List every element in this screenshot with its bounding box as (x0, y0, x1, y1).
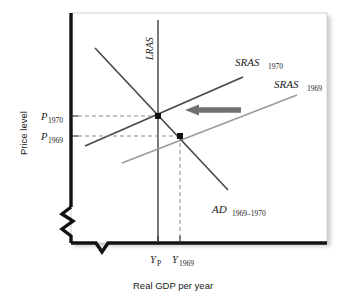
p1970-base: P (40, 111, 48, 122)
sras-1969-label-sub: 1969 (307, 84, 322, 93)
y-tick-label-p1970: P 1970 (40, 111, 63, 125)
y-axis-title: Price level (18, 111, 29, 155)
x-tick-label-y1969: Y 1969 (172, 254, 194, 268)
x-axis-title: Real GDP per year (133, 280, 213, 291)
x-axis-break (71, 243, 327, 252)
p1969-sub: 1969 (48, 136, 63, 145)
p1969-base: P (40, 131, 48, 142)
sras-1970-label-base: SRAS (235, 56, 260, 68)
p1970-sub: 1970 (48, 116, 63, 125)
y1969-sub: 1969 (179, 259, 194, 268)
equilibrium-1969 (177, 133, 183, 139)
equilibrium-1970 (155, 113, 161, 119)
ad-label-sub: 1969–1970 (232, 209, 266, 218)
y1969-base: Y (172, 254, 179, 265)
sras-1970-label-sub: 1970 (268, 62, 283, 71)
sras-1969-label-base: SRAS (274, 78, 299, 90)
plot-panel (71, 13, 327, 243)
yp-sub: P (157, 259, 161, 268)
ad-as-stagflation-diagram: LRAS SRAS 1970 SRAS 1969 AD 1969–1970 P … (0, 0, 345, 300)
yp-base: Y (150, 254, 157, 265)
lras-label: LRAS (144, 37, 155, 61)
x-tick-label-yp: Y P (150, 254, 161, 268)
ad-label-base: AD (211, 203, 227, 215)
y-tick-label-p1969: P 1969 (40, 131, 63, 145)
